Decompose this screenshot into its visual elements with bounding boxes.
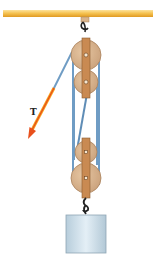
upper-axle-1 <box>84 53 88 57</box>
lower-hook-icon <box>83 198 88 214</box>
lower-strap <box>82 138 90 198</box>
tension-label: T <box>30 107 37 117</box>
lower-axle-1 <box>85 151 88 154</box>
ceiling-beam <box>3 10 153 17</box>
ceiling-bracket <box>81 17 89 22</box>
upper-strap <box>82 38 90 98</box>
upper-axle-2 <box>84 80 88 84</box>
lower-axle-2 <box>85 177 88 180</box>
pulley-diagram: T <box>0 0 159 268</box>
hanging-weight <box>66 215 106 253</box>
upper-hook-icon <box>81 22 88 32</box>
